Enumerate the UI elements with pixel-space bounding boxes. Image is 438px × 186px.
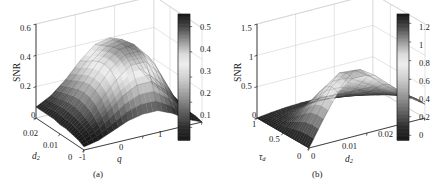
y-axis-label-b-sub: 2: [350, 157, 353, 164]
x-tick-a-1: 0.01: [43, 141, 58, 150]
y-axis-label-a-base: q: [117, 154, 122, 164]
cbar-b-tick-1: 0.2: [419, 113, 430, 122]
x-tick-b-2: 0: [297, 152, 301, 161]
y-tick-b-1: 0.01: [342, 142, 357, 151]
z-tick-b-1: 0.5: [241, 82, 252, 91]
cbar-b-tick-6: 1.2: [419, 23, 430, 32]
surface-plot-b: [219, 0, 438, 186]
panel-a: SNR 0.6 0.4 0.2 0 0.02 0.01 0 d2 -1 0 1 …: [0, 0, 219, 186]
cbar-b-tick-2: 0.4: [419, 95, 430, 104]
cbar-a-tick-0: 0.1: [200, 111, 211, 120]
x-tick-a-0: 0.02: [23, 129, 38, 138]
y-tick-b-0: 0: [311, 152, 315, 161]
y-tick-a-2: 1: [158, 130, 162, 139]
x-tick-a-2: 0: [68, 153, 72, 162]
x-tick-b-0: 1: [252, 120, 256, 129]
z-tick-b-2: 1: [249, 53, 253, 62]
x-axis-label-b: τd: [259, 153, 266, 163]
z-tick-a-2: 0.4: [20, 53, 31, 62]
x-tick-b-1: 0.5: [269, 135, 280, 144]
cbar-b-tick-4: 0.8: [419, 59, 430, 68]
cbar-b-tick-0: 0: [419, 131, 423, 140]
z-tick-a-1: 0.2: [20, 82, 31, 91]
y-tick-a-1: 0: [119, 143, 123, 152]
z-axis-label-b: SNR: [233, 63, 243, 82]
z-axis-label-a: SNR: [12, 63, 22, 82]
cbar-b-tick-3: 0.6: [419, 77, 430, 86]
z-tick-b-3: 1.5: [241, 24, 252, 33]
plot-area-b: [219, 0, 438, 186]
y-axis-label-a: q: [117, 155, 122, 164]
y-tick-a-0: -1: [79, 153, 86, 162]
figure-root: SNR 0.6 0.4 0.2 0 0.02 0.01 0 d2 -1 0 1 …: [0, 0, 438, 186]
x-axis-label-b-sub: d: [262, 155, 265, 162]
panel-b: SNR 1.5 1 0.5 0 1 0.5 0 τd 0 0.01 0.02 d…: [219, 0, 438, 186]
cbar-a-tick-2: 0.3: [200, 67, 211, 76]
y-axis-label-b: d2: [345, 155, 353, 165]
cbar-a-tick-4: 0.5: [200, 23, 211, 32]
caption-a: (a): [93, 170, 103, 179]
y-tick-b-2: 0.02: [378, 130, 393, 139]
caption-b: (b): [312, 170, 323, 179]
x-axis-label-a: d2: [32, 152, 40, 162]
cbar-a-tick-1: 0.2: [200, 89, 211, 98]
cbar-a-tick-3: 0.4: [200, 45, 211, 54]
x-axis-label-a-sub: 2: [37, 154, 40, 161]
z-tick-a-0: 0: [31, 111, 35, 120]
cbar-b-tick-5: 1: [419, 41, 423, 50]
z-tick-a-3: 0.6: [20, 24, 31, 33]
